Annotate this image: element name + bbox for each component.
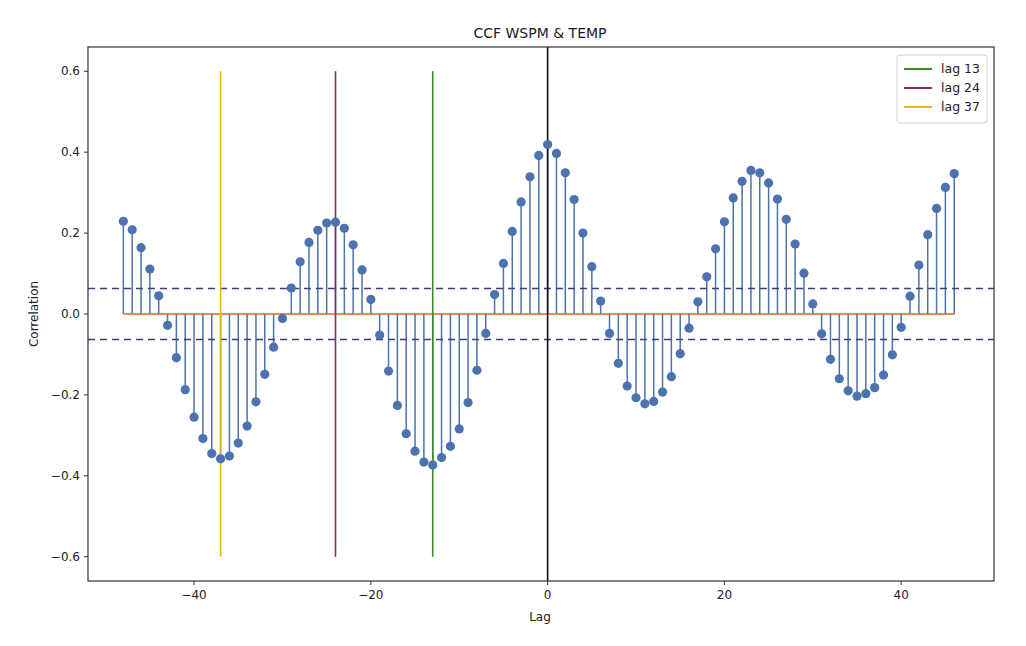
stem-marker [905, 292, 914, 301]
x-tick-label: 40 [894, 588, 909, 602]
stem-marker [340, 224, 349, 233]
y-tick-label: −0.4 [51, 469, 80, 483]
stem-marker [463, 398, 472, 407]
stem-marker [437, 453, 446, 462]
stem-marker [861, 389, 870, 398]
stem-marker [897, 323, 906, 332]
stem-marker [296, 257, 305, 266]
stem-marker [773, 195, 782, 204]
stem-marker [870, 383, 879, 392]
stem-marker [614, 359, 623, 368]
stem-marker [331, 218, 340, 227]
stem-marker [684, 324, 693, 333]
stem-marker [596, 296, 605, 305]
stem-marker [534, 151, 543, 160]
x-axis: −40−2002040 [181, 581, 908, 602]
stem-marker [658, 387, 667, 396]
stem-marker [791, 239, 800, 248]
stem-marker [490, 290, 499, 299]
stem-marker [287, 284, 296, 293]
stem-marker [720, 217, 729, 226]
stem-marker [269, 343, 278, 352]
stem-marker [702, 272, 711, 281]
stem-marker [525, 172, 534, 181]
stem-marker [481, 329, 490, 338]
stem-marker [243, 421, 252, 430]
stem-marker [852, 392, 861, 401]
stem-marker [304, 238, 313, 247]
stem-marker [932, 204, 941, 213]
y-axis-label: Correlation [27, 281, 41, 347]
stem-marker [844, 386, 853, 395]
stem-marker [817, 329, 826, 338]
stem-marker [799, 269, 808, 278]
stem-marker [446, 442, 455, 451]
stem-marker [393, 401, 402, 410]
stem-marker [366, 295, 375, 304]
stem-marker [145, 264, 154, 273]
stem-marker [631, 393, 640, 402]
stem-marker [667, 372, 676, 381]
stem-marker [737, 177, 746, 186]
stem-marker [764, 178, 773, 187]
stem-marker [251, 397, 260, 406]
stem-marker [755, 168, 764, 177]
stem-marker [782, 215, 791, 224]
stem-marker [234, 438, 243, 447]
stem-marker [561, 168, 570, 177]
stem-marker [455, 424, 464, 433]
stem-marker [198, 434, 207, 443]
chart-canvas: CCF WSPM & TEMP 0.60.40.20.0−0.2−0.4−0.6… [0, 0, 1026, 646]
stem-marker [349, 240, 358, 249]
stem-marker [605, 329, 614, 338]
stem-marker [729, 193, 738, 202]
y-tick-label: 0.0 [61, 307, 80, 321]
y-tick-label: −0.6 [51, 550, 80, 564]
stem-marker [746, 166, 755, 175]
stem-marker [428, 460, 437, 469]
stem-marker [587, 262, 596, 271]
stem-marker [384, 366, 393, 375]
stem-marker [941, 183, 950, 192]
stem-marker [154, 291, 163, 300]
stem-marker [578, 228, 587, 237]
legend: lag 13 lag 24 lag 37 [897, 55, 987, 123]
ccf-figure: CCF WSPM & TEMP 0.60.40.20.0−0.2−0.4−0.6… [0, 0, 1026, 646]
chart-title: CCF WSPM & TEMP [473, 25, 606, 41]
stem-marker [357, 265, 366, 274]
stem-marker [879, 370, 888, 379]
stem-marker [808, 299, 817, 308]
x-tick-label: 0 [544, 588, 552, 602]
y-tick-label: 0.2 [61, 226, 80, 240]
legend-label-lag-24: lag 24 [941, 80, 980, 95]
legend-label-lag-37: lag 37 [941, 99, 980, 114]
stem-marker [649, 397, 658, 406]
stem-marker [322, 218, 331, 227]
stem-marker [517, 197, 526, 206]
stem-marker [260, 370, 269, 379]
stem-marker [278, 314, 287, 323]
stem-marker [419, 457, 428, 466]
stem-marker [189, 413, 198, 422]
stem-marker [119, 217, 128, 226]
stem-marker [543, 140, 552, 149]
stem-marker [313, 226, 322, 235]
y-tick-label: 0.6 [61, 64, 80, 78]
legend-label-lag-13: lag 13 [941, 61, 980, 76]
x-axis-label: Lag [529, 610, 551, 624]
stem-marker [128, 225, 137, 234]
stem-marker [216, 454, 225, 463]
stem-marker [410, 447, 419, 456]
stem-marker [623, 381, 632, 390]
stem-marker [375, 330, 384, 339]
stem-marker [826, 355, 835, 364]
stem-marker [835, 374, 844, 383]
y-tick-label: 0.4 [61, 145, 80, 159]
stem-marker [570, 195, 579, 204]
stem-marker [950, 169, 959, 178]
stem-marker [552, 149, 561, 158]
stem-marker [136, 243, 145, 252]
x-tick-label: 20 [717, 588, 732, 602]
stem-marker [181, 385, 190, 394]
y-tick-label: −0.2 [51, 388, 80, 402]
